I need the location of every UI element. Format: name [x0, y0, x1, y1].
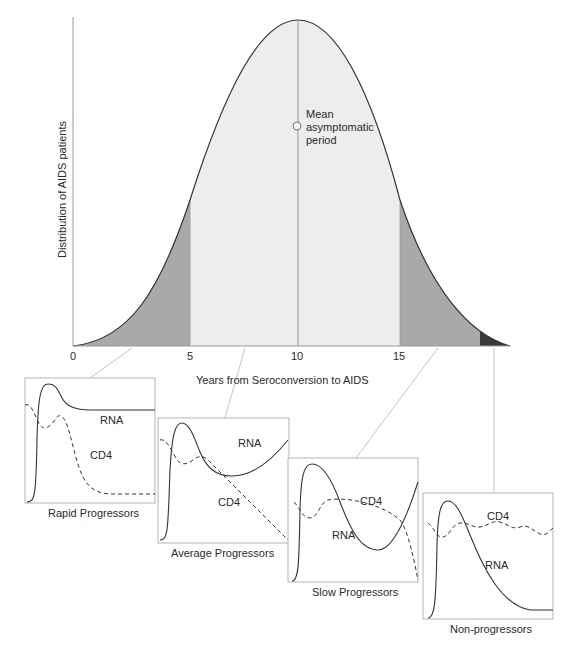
average-region	[190, 0, 400, 346]
x-tick-5: 5	[187, 350, 193, 362]
non-cd4-label: CD4	[487, 510, 509, 522]
average-cd4-label: CD4	[218, 496, 240, 508]
slow-region	[400, 0, 480, 346]
rapid-rna-label: RNA	[100, 414, 123, 426]
slow-title: Slow Progressors	[312, 586, 398, 598]
slow-rna-label: RNA	[332, 529, 355, 541]
rapid-cd4-label: CD4	[90, 449, 112, 461]
x-tick-15: 15	[393, 350, 405, 362]
non-rna-label: RNA	[485, 559, 508, 571]
x-tick-10: 10	[291, 350, 303, 362]
mean-marker	[293, 122, 301, 130]
y-axis-label: Distribution of AIDS patients	[56, 121, 68, 258]
panel-average	[158, 418, 289, 543]
rapid-title: Rapid Progressors	[48, 507, 139, 519]
rapid-region	[73, 0, 190, 346]
non-title: Non-progressors	[450, 623, 532, 635]
average-rna-label: RNA	[238, 437, 261, 449]
slow-cd4-label: CD4	[360, 495, 382, 507]
panel-slow	[288, 458, 418, 582]
x-tick-0: 0	[70, 350, 76, 362]
panel-rapid	[25, 378, 155, 503]
mean-annotation: Mean asymptomatic period	[306, 108, 374, 147]
x-axis-label: Years from Seroconversion to AIDS	[196, 374, 369, 386]
non-progressor-region	[480, 0, 510, 346]
average-title: Average Progressors	[171, 547, 274, 559]
aids-progression-diagram	[0, 0, 579, 651]
